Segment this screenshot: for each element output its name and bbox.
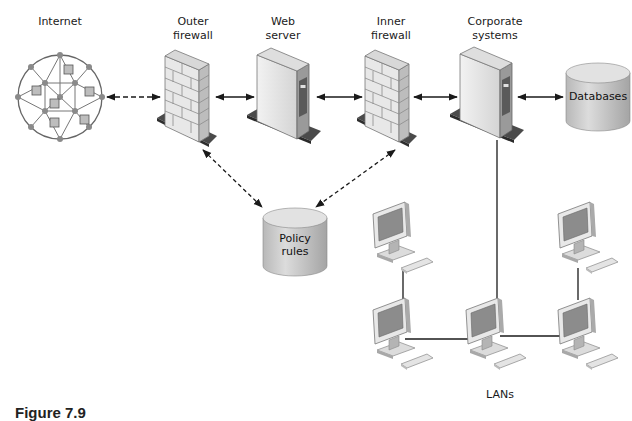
internet-globe-icon (15, 52, 105, 142)
lans-label: LANs (475, 388, 525, 402)
internet-label: Internet (30, 15, 90, 29)
web-server-label: Web server (253, 15, 313, 43)
inner-firewall-icon (357, 50, 417, 147)
outer-firewall-label: Outer firewall (163, 15, 223, 43)
lan-workstation-icon (558, 202, 618, 274)
corporate-systems-server-icon (450, 47, 524, 143)
inner-firewall-label: Inner firewall (361, 15, 421, 43)
lan-workstation-icon (373, 202, 433, 274)
web-server-icon (247, 48, 321, 144)
lan-workstation-icon (373, 298, 433, 370)
figure-caption: Figure 7.9 (15, 404, 86, 421)
lan-workstation-icon (466, 298, 526, 370)
policy-rules-label: Policy rules (263, 232, 327, 258)
outer-firewall-icon (157, 50, 217, 147)
lan-workstation-icon (558, 298, 618, 370)
databases-label: Databases (564, 90, 632, 103)
corporate-systems-label: Corporate systems (455, 15, 535, 43)
